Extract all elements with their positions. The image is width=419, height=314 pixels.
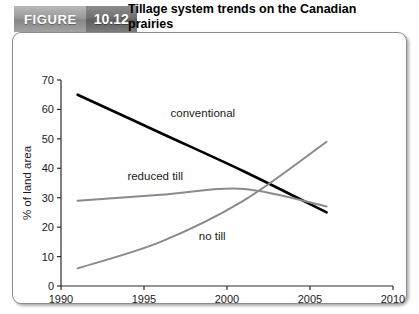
x-tick-label: 2005 (298, 293, 322, 303)
series-line-reduced-till (78, 188, 327, 206)
figure-header-banner: FIGURE 10.12 (14, 6, 137, 32)
y-tick-label: 50 (42, 133, 54, 145)
line-chart: 010203040506070 19901995200020052010 con… (13, 33, 406, 303)
y-tick-label: 60 (42, 103, 54, 115)
chart-frame: 010203040506070 19901995200020052010 con… (12, 32, 407, 304)
y-axis-title-text: % of land area (21, 145, 33, 220)
y-tick-label: 10 (42, 251, 54, 263)
figure-title-line-2: prairies (128, 17, 398, 32)
y-tick-labels: 010203040506070 (42, 74, 54, 292)
figure-title-line-1: Tillage system trends on the Canadian (128, 2, 398, 17)
y-axis-title: % of land area (21, 145, 33, 220)
y-tick-label: 70 (42, 74, 54, 86)
chart-series-labels: conventionalreduced tillno till (127, 107, 235, 243)
y-tick-label: 40 (42, 162, 54, 174)
x-tick-label: 2000 (215, 293, 239, 303)
series-label-conventional: conventional (171, 107, 236, 119)
series-label-reduced-till: reduced till (127, 170, 183, 182)
y-tick-label: 30 (42, 192, 54, 204)
figure-label: FIGURE (14, 6, 86, 32)
series-label-no-till: no till (199, 230, 226, 242)
y-tick-label: 20 (42, 221, 54, 233)
x-tick-label: 2010 (381, 293, 405, 303)
y-tick-label: 0 (48, 280, 54, 292)
x-tick-label: 1995 (132, 293, 156, 303)
x-tick-label: 1990 (49, 293, 73, 303)
series-line-no-till (78, 142, 327, 269)
x-tick-labels: 19901995200020052010 (49, 293, 405, 303)
figure-title: Tillage system trends on the Canadian pr… (128, 2, 398, 31)
